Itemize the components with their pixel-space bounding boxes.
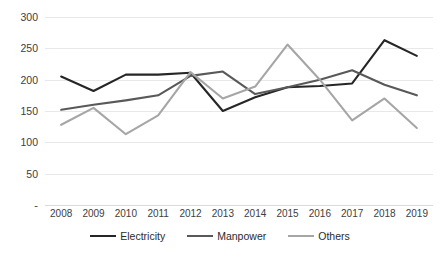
- legend-swatch-icon: [288, 235, 314, 238]
- series-lines: [0, 0, 440, 261]
- legend-item-manpower[interactable]: Manpower: [187, 230, 266, 242]
- legend-swatch-icon: [187, 235, 213, 238]
- chart-legend: ElectricityManpowerOthers: [0, 230, 440, 242]
- series-line-others: [61, 45, 417, 135]
- legend-label: Manpower: [217, 230, 266, 242]
- legend-label: Others: [318, 230, 350, 242]
- legend-item-electricity[interactable]: Electricity: [90, 230, 165, 242]
- line-chart: 30025020015010050- 200820092010201120122…: [0, 0, 440, 261]
- legend-label: Electricity: [120, 230, 165, 242]
- legend-swatch-icon: [90, 235, 116, 238]
- legend-item-others[interactable]: Others: [288, 230, 350, 242]
